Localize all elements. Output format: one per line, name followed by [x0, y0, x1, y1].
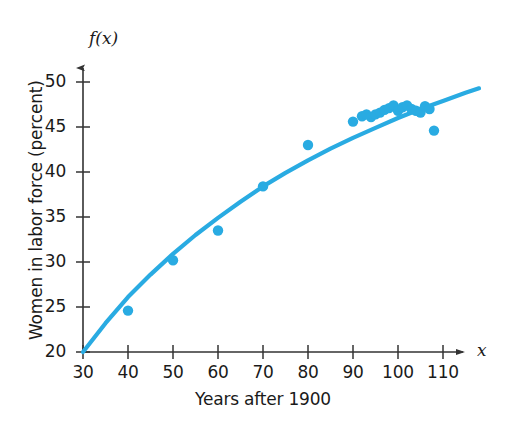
- y-tick-label-20: 20: [36, 341, 66, 361]
- x-tick-label-60: 60: [198, 362, 238, 382]
- x-tick-label-90: 90: [333, 362, 373, 382]
- y-axis-symbol-label: f(x): [89, 28, 118, 48]
- x-axis-symbol-label: x: [477, 340, 487, 360]
- data-point: [213, 225, 223, 235]
- scatter-points-group: [123, 100, 439, 316]
- x-axis-title: Years after 1900: [143, 389, 383, 409]
- data-point: [348, 116, 358, 126]
- data-point: [123, 305, 133, 315]
- x-tick-label-110: 110: [421, 362, 465, 382]
- x-tick-label-70: 70: [243, 362, 283, 382]
- x-tick-label-40: 40: [108, 362, 148, 382]
- data-point: [258, 181, 268, 191]
- x-tick-label-80: 80: [288, 362, 328, 382]
- y-axis-title: Women in labor force (percent): [26, 80, 46, 340]
- data-point: [168, 255, 178, 265]
- model-curve-line: [83, 88, 479, 352]
- data-point: [303, 140, 313, 150]
- x-tick-label-100: 100: [376, 362, 420, 382]
- data-point: [429, 125, 439, 135]
- x-tick-label-50: 50: [153, 362, 193, 382]
- x-tick-label-30: 30: [63, 362, 103, 382]
- chart-figure: 50 45 40 35 30 25 20 30 40 50 60 70 80 9…: [0, 0, 508, 425]
- data-point: [424, 104, 434, 114]
